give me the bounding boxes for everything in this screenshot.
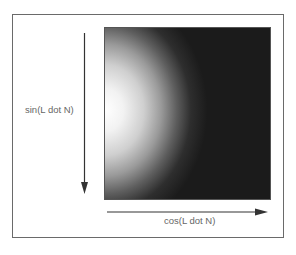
shading-gradient-image: [104, 27, 271, 200]
vertical-axis-label: sin(L dot N): [25, 105, 74, 115]
horizontal-axis-label: cos(L dot N): [164, 216, 215, 226]
